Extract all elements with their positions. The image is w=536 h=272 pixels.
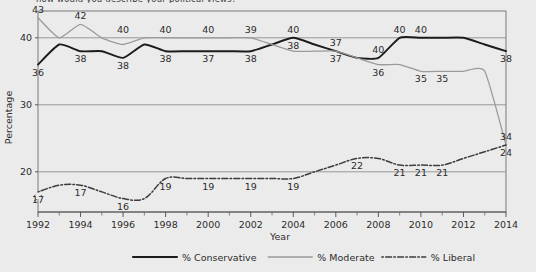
- data-label-1998-38: 38: [160, 53, 172, 64]
- x-tick-label-2002: 2002: [239, 219, 263, 230]
- data-label-2010-40: 40: [415, 24, 427, 35]
- data-labels-conservative: 363838383738383740404038: [32, 24, 512, 78]
- data-label-2011-35: 35: [436, 73, 448, 84]
- y-tick-label-30: 30: [20, 99, 32, 110]
- data-label-2007-22: 22: [351, 160, 363, 171]
- data-label-1996-38: 38: [117, 60, 129, 71]
- data-label-1992-17: 17: [32, 194, 44, 205]
- data-label-2014-38: 38: [500, 53, 512, 64]
- x-tick-label-1994: 1994: [68, 219, 92, 230]
- data-label-2010-35: 35: [415, 73, 427, 84]
- x-tick-label-2000: 2000: [196, 219, 220, 230]
- legend-label-2: % Liberal: [431, 252, 475, 263]
- line-chart: 203040Percentage199219941996199820002002…: [0, 0, 536, 272]
- data-label-1994-17: 17: [74, 187, 86, 198]
- gridlines: [38, 38, 506, 172]
- data-label-2002-39: 39: [245, 24, 257, 35]
- data-label-1998-19: 19: [160, 181, 172, 192]
- legend: % Conservative% Moderate% Liberal: [133, 252, 475, 263]
- data-label-1994-42: 42: [74, 10, 86, 21]
- x-tick-label-2008: 2008: [366, 219, 390, 230]
- legend-label-0: % Conservative: [182, 252, 257, 263]
- data-label-2006-37: 37: [330, 37, 342, 48]
- y-tick-labels: 203040: [20, 32, 32, 177]
- data-label-2010-21: 21: [415, 167, 427, 178]
- data-label-2000-40: 40: [202, 24, 214, 35]
- data-label-2014-34: 34: [500, 131, 512, 142]
- data-label-1992-36: 36: [32, 67, 44, 78]
- data-label-2004-19: 19: [287, 181, 299, 192]
- x-axis-title: Year: [269, 231, 290, 242]
- y-tick-label-40: 40: [20, 32, 32, 43]
- data-label-2000-19: 19: [202, 181, 214, 192]
- x-tick-label-1998: 1998: [154, 219, 178, 230]
- data-label-1992-43: 43: [32, 4, 44, 15]
- legend-label-1: % Moderate: [317, 252, 374, 263]
- x-tick-label-1992: 1992: [26, 219, 50, 230]
- data-label-2011-21: 21: [436, 167, 448, 178]
- y-axis-title: Percentage: [3, 91, 14, 145]
- data-label-2009-21: 21: [394, 167, 406, 178]
- series-line-conservative: [38, 37, 506, 65]
- x-tick-labels: 1992199419961998200020022004200620082010…: [26, 219, 518, 230]
- x-tick-label-2012: 2012: [451, 219, 475, 230]
- data-label-1994-38: 38: [74, 53, 86, 64]
- data-label-2004-38: 38: [287, 40, 299, 51]
- x-tick-label-2006: 2006: [324, 219, 348, 230]
- data-label-2008-40: 40: [372, 44, 384, 55]
- x-tick-label-2004: 2004: [281, 219, 305, 230]
- data-label-2008-36: 36: [372, 67, 384, 78]
- data-label-2014-24: 24: [500, 147, 512, 158]
- y-tick-label-20: 20: [20, 166, 32, 177]
- data-label-2006-37: 37: [330, 53, 342, 64]
- data-label-2002-19: 19: [245, 181, 257, 192]
- data-label-1996-40: 40: [117, 24, 129, 35]
- x-ticks: [38, 212, 506, 217]
- data-label-2002-38: 38: [245, 53, 257, 64]
- x-tick-label-1996: 1996: [111, 219, 135, 230]
- data-label-2000-37: 37: [202, 53, 214, 64]
- plot-frame: [38, 11, 506, 212]
- data-label-2009-40: 40: [394, 24, 406, 35]
- data-label-2004-40: 40: [287, 24, 299, 35]
- data-label-1998-40: 40: [160, 24, 172, 35]
- data-labels-liberal: 171716191919192221212134: [32, 131, 512, 212]
- data-label-1996-16: 16: [117, 201, 129, 212]
- data-labels-moderate: 434240404039403736353524: [32, 4, 512, 158]
- x-tick-label-2014: 2014: [494, 219, 518, 230]
- x-tick-label-2010: 2010: [409, 219, 433, 230]
